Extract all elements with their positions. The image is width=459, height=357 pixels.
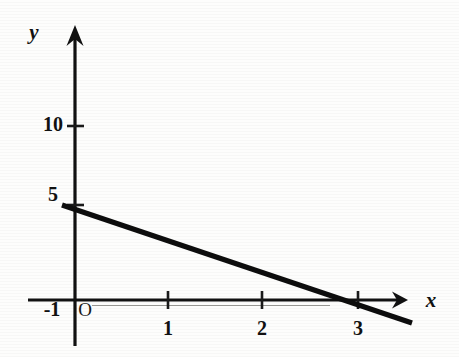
x-tick-label-3: 3 [353, 317, 363, 339]
x-axis-label: x [425, 288, 437, 312]
origin-label: O [78, 299, 92, 320]
y-axis-label: y [26, 20, 39, 44]
x-tick-label-1: 1 [163, 317, 173, 339]
y-tick-label-5: 5 [48, 183, 58, 205]
graph-figure: y x 10 5 1 2 3 -1 O [0, 0, 459, 357]
x-axis-negative-one-label: -1 [44, 298, 61, 320]
x-tick-label-2: 2 [257, 317, 267, 339]
y-tick-label-10: 10 [43, 113, 63, 135]
graph-canvas: y x 10 5 1 2 3 -1 O [0, 0, 459, 357]
